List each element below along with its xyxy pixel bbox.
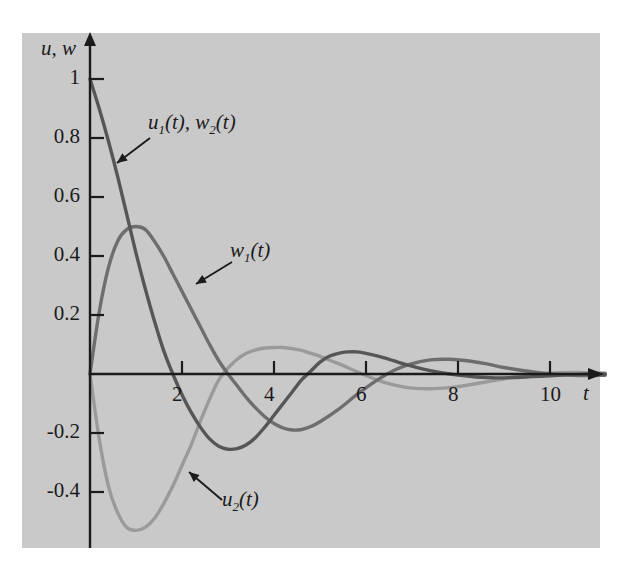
y-tick-label: -0.4: [10, 478, 80, 503]
x-tick-label: 8: [448, 382, 459, 407]
y-axis-label: u, w: [41, 36, 76, 61]
x-axis-label: t: [583, 381, 589, 406]
curve-label-u2: u2(t): [222, 487, 259, 515]
x-tick-label: 10: [540, 382, 561, 407]
annotation-arrowhead-1: [196, 275, 207, 284]
x-tick-label: 6: [356, 382, 367, 407]
curve-label-u1-w2: u1(t), w2(t): [148, 110, 236, 138]
y-tick-label: 0.4: [10, 242, 80, 267]
figure-container: u, w t u1(t), w2(t) w1(t) u2(t) 24681010…: [0, 0, 619, 561]
x-tick-label: 2: [172, 382, 183, 407]
y-tick-label: 0.2: [10, 301, 80, 326]
y-tick-label: 1: [10, 65, 80, 90]
curve-label-w1: w1(t): [230, 238, 270, 266]
x-axis-arrowhead: [588, 368, 604, 380]
x-tick-label: 4: [264, 382, 275, 407]
curve-w1-t-: [90, 227, 605, 431]
plot-svg: [0, 0, 619, 561]
y-tick-label: 0.6: [10, 183, 80, 208]
curve-group: [90, 79, 605, 530]
y-tick-label: -0.2: [10, 419, 80, 444]
y-tick-label: 0.8: [10, 124, 80, 149]
annotation-arrowhead-0: [117, 153, 128, 163]
y-axis-arrowhead: [84, 32, 96, 46]
